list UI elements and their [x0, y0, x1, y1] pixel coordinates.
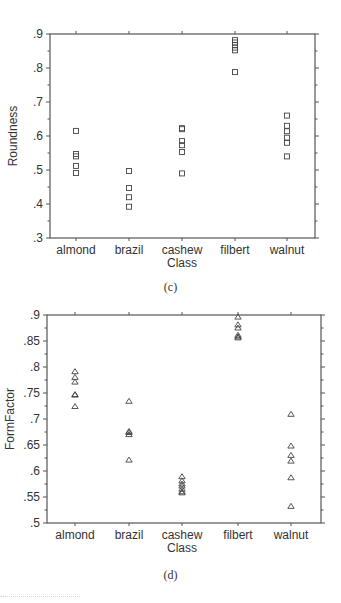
data-point-square	[74, 163, 79, 168]
y-tick-label: .3	[33, 231, 43, 245]
caption-d: (d)	[0, 568, 341, 583]
data-point-triangle	[288, 452, 294, 457]
data-point-square	[285, 123, 290, 128]
x-axis-title: Class	[167, 256, 197, 270]
x-tick-label-cashew: cashew	[162, 243, 203, 257]
data-point-square	[285, 135, 290, 140]
x-tick-label-walnut: walnut	[269, 243, 305, 257]
data-point-square	[285, 113, 290, 118]
y-tick-label: .85	[23, 334, 40, 348]
y-axis-title: FormFactor	[3, 388, 17, 450]
data-point-square	[127, 186, 132, 191]
y-tick-label: .55	[23, 490, 40, 504]
data-point-square	[127, 169, 132, 174]
y-tick-label: .6	[33, 129, 43, 143]
data-point-square	[285, 140, 290, 145]
data-point-triangle	[126, 398, 132, 403]
data-point-square	[74, 171, 79, 176]
x-tick-label-almond: almond	[55, 528, 94, 542]
x-axis-title: Class	[167, 541, 197, 555]
data-point-square	[180, 171, 185, 176]
caption-c: (c)	[0, 280, 341, 295]
y-tick-label: .5	[30, 516, 40, 530]
y-tick-label: .9	[30, 308, 40, 322]
y-tick-label: .6	[30, 464, 40, 478]
data-point-square	[127, 195, 132, 200]
formfactor-chart: .5.55.6.65.7.75.8.85.9almondbrazilcashew…	[0, 300, 341, 600]
y-tick-label: .7	[30, 412, 40, 426]
data-point-triangle	[288, 503, 294, 508]
data-point-square	[74, 128, 79, 133]
y-tick-label: .75	[23, 386, 40, 400]
x-tick-label-filbert: filbert	[223, 528, 253, 542]
y-tick-label: .9	[33, 27, 43, 41]
roundness-chart: .3.4.5.6.7.8.9almondbrazilcashewfilbertw…	[0, 0, 341, 300]
y-tick-label: .4	[33, 197, 43, 211]
x-tick-label-walnut: walnut	[273, 528, 309, 542]
data-point-square	[233, 70, 238, 75]
data-point-triangle	[72, 369, 78, 374]
x-tick-label-filbert: filbert	[220, 243, 250, 257]
x-tick-label-almond: almond	[56, 243, 95, 257]
y-tick-label: .8	[33, 61, 43, 75]
data-point-triangle	[288, 475, 294, 480]
y-tick-label: .65	[23, 438, 40, 452]
data-point-triangle	[72, 404, 78, 409]
data-point-triangle	[288, 458, 294, 463]
plot-frame	[50, 34, 315, 238]
data-point-square	[285, 154, 290, 159]
y-axis-title: Roundness	[6, 106, 20, 167]
x-tick-label-cashew: cashew	[162, 528, 203, 542]
x-tick-label-brazil: brazil	[115, 528, 144, 542]
data-point-square	[180, 149, 185, 154]
data-point-square	[127, 204, 132, 209]
data-point-square	[285, 129, 290, 134]
cutoff-text-line	[0, 596, 80, 601]
y-tick-label: .7	[33, 95, 43, 109]
y-tick-label: .5	[33, 163, 43, 177]
data-point-triangle	[288, 443, 294, 448]
data-point-triangle	[126, 457, 132, 462]
data-point-triangle	[288, 411, 294, 416]
y-tick-label: .8	[30, 360, 40, 374]
x-tick-label-brazil: brazil	[115, 243, 144, 257]
